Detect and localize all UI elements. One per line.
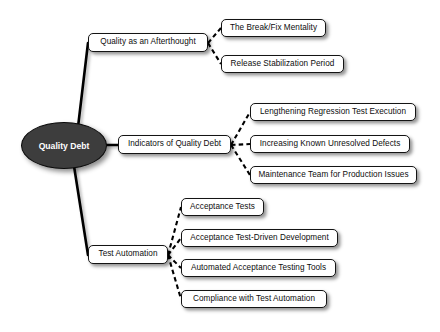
leaf-node-acceptance-tests[interactable]: Acceptance Tests [181, 198, 264, 216]
edge-test-automation-to-acceptance-tests [168, 207, 181, 255]
branch-node-label: Quality as an Afterthought [100, 38, 196, 46]
leaf-node-compliance-with-test-automation[interactable]: Compliance with Test Automation [181, 290, 327, 308]
leaf-node-increasing-known-unresolved-defects[interactable]: Increasing Known Unresolved Defects [250, 135, 410, 153]
leaf-node-label: Lengthening Regression Test Execution [260, 108, 406, 116]
root-node-label: Quality Debt [39, 141, 90, 151]
mind-map-canvas: Quality Debt Quality as an Afterthought … [0, 0, 440, 332]
edge-indicators-to-lengthening-regression [231, 112, 250, 145]
edge-afterthought-to-break-fix [208, 28, 221, 43]
leaf-node-acceptance-test-driven-development[interactable]: Acceptance Test-Driven Development [181, 229, 338, 247]
edge-root-to-afterthought [78, 43, 88, 127]
edge-afterthought-to-release-stabilization [208, 43, 221, 64]
edge-indicators-to-maintenance-team [231, 145, 250, 175]
branch-node-indicators-of-quality-debt[interactable]: Indicators of Quality Debt [118, 135, 231, 154]
leaf-node-label: Compliance with Test Automation [193, 295, 315, 303]
edge-root-to-test-automation [74, 166, 88, 255]
branch-node-label: Indicators of Quality Debt [128, 140, 221, 148]
leaf-node-maintenance-team-for-production-issues[interactable]: Maintenance Team for Production Issues [250, 166, 417, 184]
root-node-quality-debt[interactable]: Quality Debt [21, 122, 107, 169]
leaf-node-automated-acceptance-testing-tools[interactable]: Automated Acceptance Testing Tools [181, 259, 336, 277]
edge-test-automation-to-automated-tools [168, 255, 181, 268]
leaf-node-label: The Break/Fix Mentality [230, 24, 317, 32]
leaf-node-label: Release Stabilization Period [231, 60, 335, 68]
branch-node-test-automation[interactable]: Test Automation [88, 245, 168, 264]
leaf-node-lengthening-regression-test-execution[interactable]: Lengthening Regression Test Execution [250, 103, 416, 121]
branch-node-quality-as-an-afterthought[interactable]: Quality as an Afterthought [88, 33, 208, 52]
leaf-node-the-break-fix-mentality[interactable]: The Break/Fix Mentality [221, 19, 326, 37]
leaf-node-release-stabilization-period[interactable]: Release Stabilization Period [221, 55, 344, 73]
leaf-node-label: Acceptance Tests [190, 203, 255, 211]
leaf-node-label: Maintenance Team for Production Issues [258, 171, 408, 179]
edge-test-automation-to-compliance [168, 255, 181, 299]
edge-test-automation-to-atdd [168, 238, 181, 255]
leaf-node-label: Automated Acceptance Testing Tools [191, 264, 326, 272]
branch-node-label: Test Automation [98, 250, 157, 258]
edge-indicators-to-increasing-defects [231, 144, 250, 145]
leaf-node-label: Acceptance Test-Driven Development [190, 234, 329, 242]
leaf-node-label: Increasing Known Unresolved Defects [260, 140, 401, 148]
